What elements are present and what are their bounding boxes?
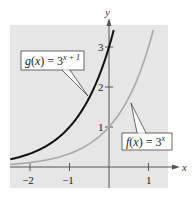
y-axis-arrow-icon bbox=[107, 18, 112, 26]
y-tick-label: 1 bbox=[98, 121, 104, 133]
x-tick-label: 1 bbox=[146, 174, 152, 186]
x-tick-label: −1 bbox=[62, 174, 74, 186]
x-tick-label: −2 bbox=[22, 174, 34, 186]
y-axis-label: y bbox=[104, 6, 110, 18]
exponential-graph: x y −2 −1 1 1 2 3 g(x) = 3x + 1 f(x) bbox=[0, 0, 193, 199]
x-axis-label: x bbox=[181, 161, 187, 173]
svg-text:f(x) = 3x: f(x) = 3x bbox=[126, 134, 165, 149]
x-axis-arrow-icon bbox=[172, 165, 180, 170]
y-tick-label: 2 bbox=[98, 81, 104, 93]
plot-background bbox=[10, 25, 168, 188]
y-tick-label: 3 bbox=[98, 41, 104, 53]
